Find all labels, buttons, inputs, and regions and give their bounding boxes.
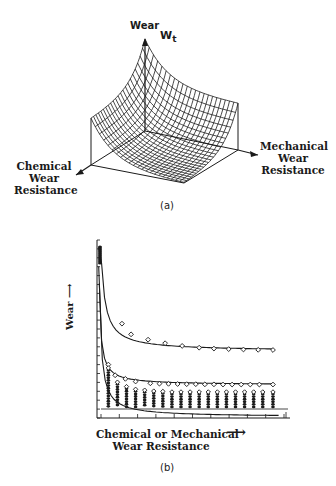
caption-b: (b) [160,462,174,473]
surface-label-t: t [172,34,176,44]
label-line: Wear [260,152,326,164]
label-line: Resistance [260,164,326,176]
label-line: Resistance [14,184,74,196]
wear-vs-resistance-plot [0,0,336,486]
caption-a: (a) [160,200,174,211]
right-arrow-icon: ⟶ [226,426,246,438]
y-axis-label-wear: Wear ⟶ [64,284,76,330]
right-axis-label-mechanical-wear-resistance: Mechanical Wear Resistance [260,140,326,176]
z-axis-label-wear: Wear [130,20,159,32]
x-axis-label: Chemical or Mechanical Wear Resistance [96,428,226,452]
up-arrow-icon: ⟶ [64,284,75,298]
surface-label-w: W [160,29,172,42]
left-axis-label-chemical-wear-resistance: Chemical Wear Resistance [14,160,74,196]
label-line: Mechanical [260,140,326,152]
surface-label-wt: Wt [160,30,176,45]
label-line: Wear [14,172,74,184]
label-line: Chemical or Mechanical [96,428,226,440]
label-line: Chemical [14,160,74,172]
y-axis-label-text: Wear [64,301,75,330]
label-line: Wear Resistance [96,440,226,452]
